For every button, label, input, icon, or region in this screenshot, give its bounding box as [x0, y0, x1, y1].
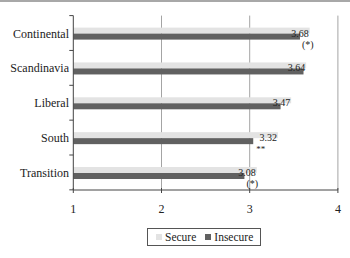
bar-insecure — [73, 68, 303, 74]
x-tick-label: 3 — [247, 202, 253, 216]
x-tick-label: 4 — [335, 202, 341, 216]
bar-insecure — [73, 103, 280, 109]
bar-secure — [73, 97, 291, 103]
x-tick-label: 2 — [159, 202, 165, 216]
legend-item-insecure: Insecure — [205, 231, 253, 243]
insecure-swatch-icon — [205, 234, 211, 240]
bar-secure — [73, 62, 306, 68]
labels: Continental3.68(*)Scandinavia3.64Liberal… — [10, 27, 341, 216]
bar-secure — [73, 132, 278, 138]
data-label: 3.08 — [238, 167, 256, 178]
legend-label-secure: Secure — [165, 231, 196, 243]
category-label: Transition — [20, 166, 69, 180]
bar-secure — [73, 167, 256, 173]
bar-insecure — [73, 34, 300, 40]
legend-item-secure: Secure — [156, 231, 196, 243]
bar-chart: Continental3.68(*)Scandinavia3.64Liberal… — [0, 0, 350, 258]
legend: Secure Insecure — [147, 228, 261, 246]
bar-secure — [73, 28, 309, 34]
bar-insecure — [73, 173, 244, 179]
significance-annotation: (*) — [302, 39, 314, 51]
data-label: 3.47 — [273, 97, 291, 108]
category-label: Liberal — [34, 96, 69, 110]
bar-insecure — [73, 138, 253, 144]
significance-annotation: (*) — [246, 178, 258, 190]
data-label: 3.68 — [291, 28, 309, 39]
category-label: Scandinavia — [10, 61, 69, 75]
significance-annotation: ** — [256, 144, 266, 154]
x-tick-label: 1 — [70, 202, 76, 216]
category-label: Continental — [13, 27, 70, 41]
data-label: 3.64 — [288, 62, 306, 73]
category-label: South — [41, 131, 69, 145]
secure-swatch-icon — [156, 234, 162, 240]
legend-label-insecure: Insecure — [214, 231, 253, 243]
data-label: 3.32 — [259, 132, 277, 143]
